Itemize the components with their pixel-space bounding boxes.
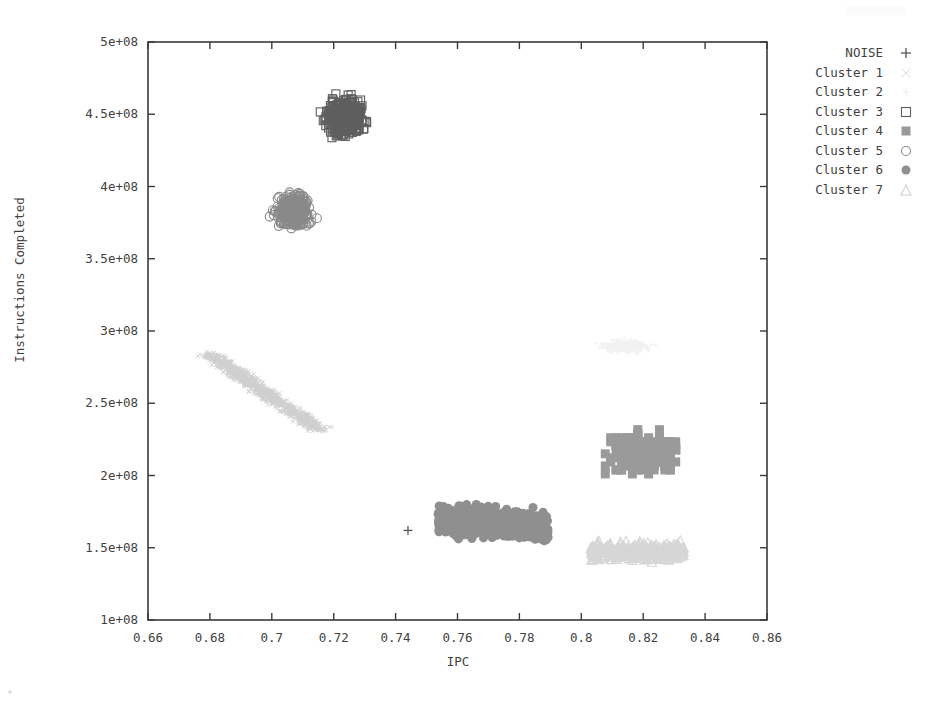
series-cluster-2 — [594, 336, 658, 355]
legend-entry[interactable]: NOISE — [795, 44, 925, 61]
legend-entry[interactable]: Cluster 5 — [795, 142, 925, 159]
series-noise — [403, 526, 412, 535]
x-axis-label: IPC — [148, 654, 768, 669]
legend-label: Cluster 1 — [815, 64, 883, 81]
filled-circle-icon — [895, 161, 917, 178]
x-tick-label: 0.82 — [613, 630, 673, 645]
x-tick-label: 0.72 — [304, 630, 364, 645]
x-tick-label: 0.8 — [551, 630, 611, 645]
open-square-icon — [895, 103, 917, 120]
plot-canvas — [0, 0, 925, 714]
x-tick-label: 0.84 — [675, 630, 735, 645]
legend-entry[interactable]: Cluster 3 — [795, 103, 925, 120]
y-tick-label: 4e+08 — [100, 179, 138, 194]
legend-label: Cluster 6 — [815, 161, 883, 178]
legend-entry[interactable]: Cluster 2 — [795, 83, 925, 100]
legend-label: Cluster 4 — [815, 122, 883, 139]
open-triangle-icon — [895, 181, 917, 198]
cross-thin-icon — [895, 64, 917, 81]
series-cluster-6 — [434, 500, 553, 545]
legend-entry[interactable]: Cluster 4 — [795, 122, 925, 139]
x-tick-label: 0.78 — [489, 630, 549, 645]
series-cluster-1 — [196, 350, 334, 434]
filled-square-icon — [895, 122, 917, 139]
series-cluster-4 — [601, 425, 680, 478]
x-tick-label: 0.7 — [242, 630, 302, 645]
background-artifact — [845, 6, 905, 15]
corner-speck — [8, 690, 12, 694]
star-faint-icon — [895, 83, 917, 100]
x-tick-label: 0.86 — [737, 630, 797, 645]
legend-label: Cluster 5 — [815, 142, 883, 159]
legend-entry[interactable]: Cluster 7 — [795, 181, 925, 198]
x-tick-label: 0.76 — [428, 630, 488, 645]
legend-label: Cluster 7 — [815, 181, 883, 198]
legend-entry[interactable]: Cluster 6 — [795, 161, 925, 178]
series-cluster-7 — [586, 536, 688, 566]
open-circle-icon — [895, 142, 917, 159]
y-tick-label: 1.5e+08 — [85, 540, 138, 555]
y-tick-label: 4.5e+08 — [85, 106, 138, 121]
series-cluster-5 — [265, 188, 321, 233]
x-tick-label: 0.68 — [180, 630, 240, 645]
y-tick-label: 3.5e+08 — [85, 251, 138, 266]
y-tick-label: 1e+08 — [100, 612, 138, 627]
legend-label: Cluster 3 — [815, 103, 883, 120]
y-tick-label: 2.5e+08 — [85, 395, 138, 410]
legend-entry[interactable]: Cluster 1 — [795, 64, 925, 81]
series-cluster-3 — [316, 90, 370, 142]
plus-icon — [895, 44, 917, 61]
y-axis-label: Instructions Completed — [12, 130, 34, 430]
x-tick-label: 0.74 — [366, 630, 426, 645]
y-tick-label: 5e+08 — [100, 34, 138, 49]
y-tick-label: 2e+08 — [100, 468, 138, 483]
scatter-plot-figure: 1e+081.5e+082e+082.5e+083e+083.5e+084e+0… — [0, 0, 925, 714]
y-tick-label: 3e+08 — [100, 323, 138, 338]
legend-label: NOISE — [845, 44, 883, 61]
x-tick-label: 0.66 — [118, 630, 178, 645]
legend-label: Cluster 2 — [815, 83, 883, 100]
